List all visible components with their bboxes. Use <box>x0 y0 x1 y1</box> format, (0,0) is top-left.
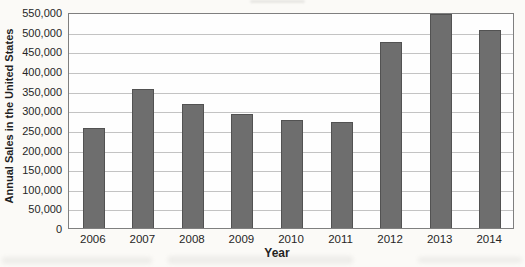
scan-artifact <box>250 0 305 3</box>
bar-2013 <box>430 14 452 228</box>
bar-2007 <box>132 89 154 228</box>
bar-chart: Annual Sales in the United States 050,00… <box>0 0 525 267</box>
x-tick-label-2008: 2008 <box>168 233 216 246</box>
y-tick-label: 500,000 <box>0 27 62 39</box>
x-tick-label-2011: 2011 <box>317 233 365 246</box>
bar-2006 <box>83 128 105 228</box>
x-tick-label-2014: 2014 <box>465 233 513 246</box>
bar-2010 <box>281 120 303 228</box>
y-tick-label: 100,000 <box>0 184 62 196</box>
scan-artifact <box>418 257 522 263</box>
bar-2011 <box>331 122 353 228</box>
bar-2008 <box>182 104 204 228</box>
bar-2014 <box>479 30 501 228</box>
x-tick-label-2010: 2010 <box>267 233 315 246</box>
x-tick-label-2012: 2012 <box>366 233 414 246</box>
y-tick-label: 250,000 <box>0 125 62 137</box>
y-tick-label: 300,000 <box>0 105 62 117</box>
x-tick-label-2007: 2007 <box>118 233 166 246</box>
bar-2009 <box>231 114 253 228</box>
x-tick-label-2013: 2013 <box>416 233 464 246</box>
y-tick-label: 0 <box>0 223 62 235</box>
scan-artifact <box>2 257 152 264</box>
y-tick-label: 400,000 <box>0 66 62 78</box>
y-tick-label: 50,000 <box>0 203 62 215</box>
y-tick-label: 550,000 <box>0 7 62 19</box>
y-tick-label: 200,000 <box>0 145 62 157</box>
scan-artifact <box>168 256 353 264</box>
plot-area <box>68 13 514 229</box>
x-tick-label-2009: 2009 <box>217 233 265 246</box>
bar-2012 <box>380 42 402 229</box>
y-tick-label: 450,000 <box>0 46 62 58</box>
y-tick-label: 150,000 <box>0 164 62 176</box>
x-tick-label-2006: 2006 <box>69 233 117 246</box>
y-tick-label: 350,000 <box>0 86 62 98</box>
